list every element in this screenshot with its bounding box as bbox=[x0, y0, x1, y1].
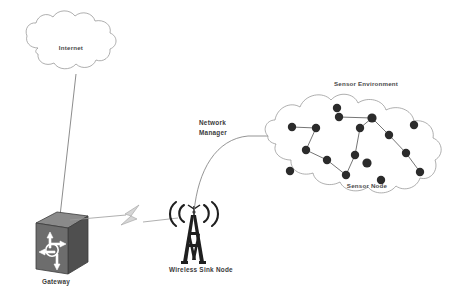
signal-arc-left-inner bbox=[179, 205, 184, 222]
sensor-node-dot[interactable] bbox=[333, 104, 341, 112]
internet-cloud-group[interactable]: Internet bbox=[26, 11, 116, 69]
network-manager-endpoint-dot bbox=[192, 210, 195, 213]
sensor-environment-cloud-shape bbox=[265, 94, 441, 193]
sensor-node-dot[interactable] bbox=[342, 171, 350, 179]
sensor-node-label: Sensor Node bbox=[347, 182, 388, 189]
antenna-whisker-left bbox=[188, 205, 194, 209]
edge-internet-to-gateway bbox=[60, 74, 76, 216]
network-diagram: Internet Gateway bbox=[0, 0, 466, 299]
sensor-node-dot[interactable] bbox=[385, 131, 393, 139]
wireless-sink-node-label: Wireless Sink Node bbox=[169, 266, 233, 273]
network-manager-label-line1: Network bbox=[199, 119, 226, 126]
signal-arc-right-inner bbox=[204, 205, 209, 222]
network-manager-label-line2: Manager bbox=[199, 129, 227, 137]
sensor-node-dot[interactable] bbox=[367, 113, 376, 122]
sensor-node-dot[interactable] bbox=[335, 113, 343, 121]
gateway-group[interactable]: Gateway bbox=[36, 212, 88, 286]
sensor-environment-group[interactable]: Sensor Environment bbox=[265, 80, 441, 193]
wireless-sink-node-group[interactable]: Wireless Sink Node bbox=[169, 202, 233, 273]
edge-sink-to-sensor-environment bbox=[194, 136, 268, 212]
sensor-node-dot[interactable] bbox=[402, 149, 410, 157]
network-manager-group[interactable]: Network Manager bbox=[192, 119, 268, 214]
gateway-label: Gateway bbox=[42, 278, 70, 286]
sensor-node-dot[interactable] bbox=[312, 124, 320, 132]
sensor-node-dot[interactable] bbox=[323, 156, 331, 164]
internet-cloud-shape bbox=[26, 11, 116, 69]
sensor-environment-label: Sensor Environment bbox=[334, 80, 398, 87]
sensor-node-dot[interactable] bbox=[356, 124, 364, 132]
signal-arc-left-outer bbox=[170, 202, 176, 226]
internet-label: Internet bbox=[59, 44, 83, 51]
diagram-canvas: Internet Gateway bbox=[0, 0, 466, 299]
sensor-node-dot[interactable] bbox=[416, 168, 424, 176]
sensor-node-dot[interactable] bbox=[286, 167, 294, 175]
sensor-node-dot[interactable] bbox=[288, 123, 296, 131]
signal-arc-right-outer bbox=[212, 202, 218, 226]
sensor-node-dot[interactable] bbox=[410, 121, 418, 129]
gateway-cube-front-face bbox=[36, 223, 68, 274]
sensor-node-dot[interactable] bbox=[362, 158, 371, 167]
sensor-node-dot[interactable] bbox=[351, 151, 359, 159]
sensor-node-dot[interactable] bbox=[302, 146, 310, 154]
